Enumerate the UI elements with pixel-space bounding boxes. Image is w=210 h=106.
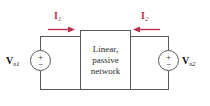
current-label-i1: I1	[54, 10, 61, 23]
network-label-line-2: passive	[92, 55, 119, 66]
voltage-source-left-label: Vs1	[6, 55, 19, 68]
wire-top-right	[130, 36, 169, 37]
current-label-i2-sub: 2	[145, 15, 149, 23]
current-label-i2: I2	[141, 10, 148, 23]
circuit-diagram: Linear, passive network + − Vs1 + − Vs2 …	[0, 0, 210, 106]
current-arrow-i2-left-icon	[132, 25, 160, 34]
network-label-line-3: network	[91, 66, 121, 77]
source-left-minus-sign: −	[38, 61, 43, 68]
wire-top-left	[40, 36, 81, 37]
voltage-source-right-symbol: + −	[158, 50, 179, 71]
voltage-source-left-label-sub: s1	[13, 60, 19, 68]
wire-right-vertical-lower	[168, 71, 169, 90]
wire-right-vertical-upper	[168, 36, 169, 51]
wire-bottom-right	[130, 89, 169, 90]
current-arrow-i1-right-icon	[48, 25, 76, 34]
wire-bottom-left	[40, 89, 81, 90]
wire-left-vertical-upper	[40, 36, 41, 51]
voltage-source-left-symbol: + −	[30, 50, 51, 71]
voltage-source-right-label: Vs2	[182, 55, 195, 68]
current-label-i1-sub: 1	[58, 15, 62, 23]
source-right-minus-sign: −	[166, 61, 171, 68]
linear-passive-network-box: Linear, passive network	[80, 30, 131, 90]
voltage-source-right-label-sub: s2	[189, 60, 195, 68]
wire-left-vertical-lower	[40, 71, 41, 90]
network-label-line-1: Linear,	[93, 44, 118, 55]
